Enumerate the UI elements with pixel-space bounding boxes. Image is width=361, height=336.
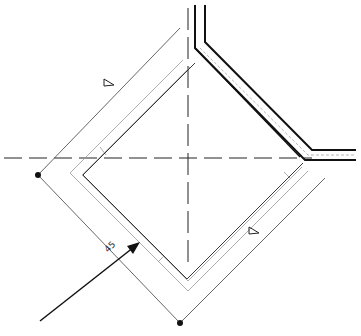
- heavy-wall-inner: [200, 48, 356, 155]
- dimension-label: 45: [102, 239, 117, 254]
- node-dot-bottom: [177, 320, 183, 326]
- diamond-top-right-edge: [195, 48, 300, 157]
- drawing-canvas: 45: [0, 0, 361, 336]
- center-lines: [4, 8, 312, 268]
- heavy-wall: [195, 5, 356, 160]
- outer-boundary: [38, 28, 325, 323]
- section-marker-triangle-bottom: [249, 227, 259, 234]
- section-marker-triangle-top: [104, 79, 114, 86]
- node-dot-left: [35, 172, 41, 178]
- direction-arrow: [40, 242, 140, 321]
- inner-wall: [70, 60, 308, 291]
- technical-drawing: 45: [0, 0, 361, 336]
